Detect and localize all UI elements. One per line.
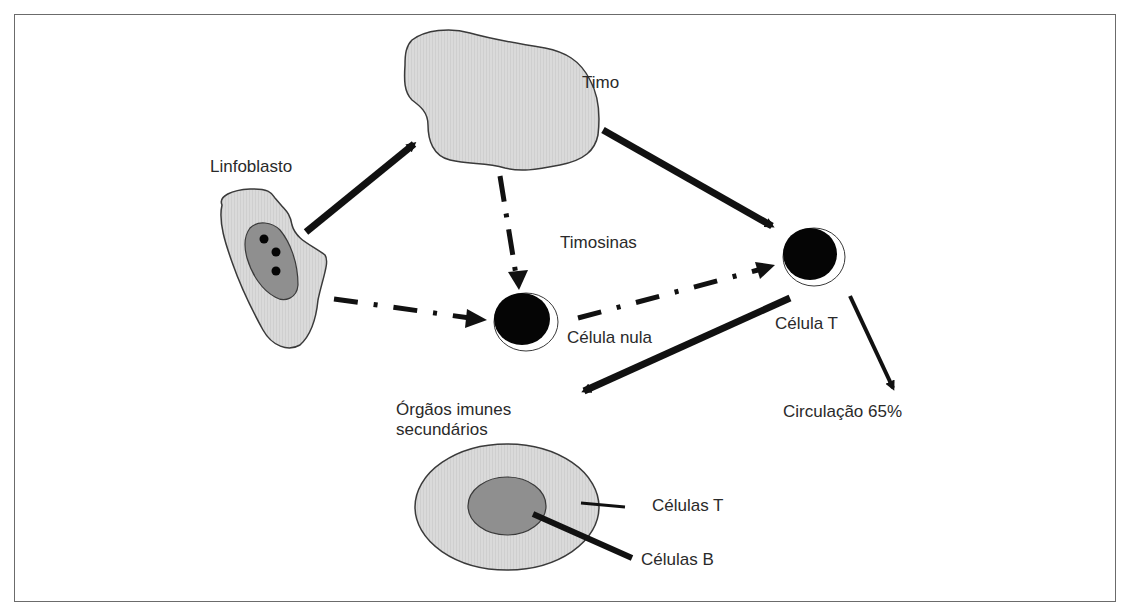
diagram-canvas [0,0,1128,614]
arrow-celula-nula-to-celula-t [578,270,758,318]
arrow-celula-t-to-circulacao [850,296,893,388]
nucleus-dot [272,267,281,276]
timo-organ [405,30,599,170]
arrowhead [465,309,487,328]
orgaos-imunes-ellipse [415,444,599,570]
arrow-linfoblasto-to-timo [306,144,414,232]
nucleus-dot [272,248,281,257]
arrow-linfoblasto-to-celula-nula [334,299,470,318]
label-circulacao: Circulação 65% [783,402,902,422]
arrow-timo-to-celula-t [603,130,772,226]
label-celula-nula: Célula nula [567,328,652,348]
celula-t-cell [783,228,845,286]
celula-nula-cell [494,293,558,351]
nucleus-dot [260,235,269,244]
linfoblasto-cell [221,189,327,348]
label-celula-t: Célula T [775,314,838,334]
label-linfoblasto: Linfoblasto [210,157,292,177]
arrowhead [755,262,775,279]
label-orgaos-line2: secundários [396,420,488,440]
label-orgaos-line1: Órgãos imunes [396,400,511,420]
label-timo: Timo [582,73,619,93]
label-celulas-t: Células T [652,496,724,516]
arrow-timo-to-celula-nula [500,176,516,275]
label-timosinas: Timosinas [560,233,637,253]
arrowhead [508,270,528,290]
label-celulas-b: Células B [641,550,714,570]
